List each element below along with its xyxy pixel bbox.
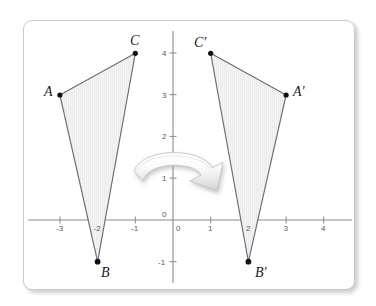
- label-c-prime: C': [194, 35, 206, 51]
- vertex-c-prime: [208, 51, 213, 56]
- y-tick-label-0: 0: [162, 210, 166, 219]
- vertex-a-prime: [284, 92, 289, 97]
- label-a-prime: A': [293, 84, 305, 100]
- label-b: B: [101, 265, 110, 281]
- x-tick-label-1: 1: [208, 224, 212, 233]
- x-tick-label-3: 3: [284, 224, 288, 233]
- x-tick-label--1: -1: [131, 224, 138, 233]
- x-tick-label--3: -3: [56, 224, 63, 233]
- vertex-a: [57, 92, 62, 97]
- y-tick-label-3: 3: [162, 91, 166, 100]
- label-a: A: [44, 84, 53, 100]
- y-tick-label-4: 4: [162, 49, 166, 58]
- label-c: C: [130, 33, 139, 49]
- x-tick-label-0: 0: [176, 224, 180, 233]
- y-tick-label-1: 1: [162, 174, 166, 183]
- x-tick-label-4: 4: [321, 224, 325, 233]
- vertex-b-prime: [246, 259, 252, 265]
- x-tick-label--2: -2: [94, 224, 101, 233]
- figure-root: -3 -2 -1 0 1 2 3 4 4 3 2 1 0 -1 A B C A'…: [0, 0, 376, 306]
- label-b-prime: B': [255, 265, 267, 281]
- vertex-b: [95, 259, 101, 265]
- x-tick-label-2: 2: [246, 224, 250, 233]
- coordinate-plane: [24, 21, 355, 290]
- figure-panel: -3 -2 -1 0 1 2 3 4 4 3 2 1 0 -1 A B C A'…: [23, 20, 355, 290]
- y-tick-label--1: -1: [158, 258, 165, 267]
- vertex-c: [133, 51, 138, 56]
- y-tick-label-2: 2: [162, 132, 166, 141]
- reflection-arrow-icon: [134, 153, 223, 191]
